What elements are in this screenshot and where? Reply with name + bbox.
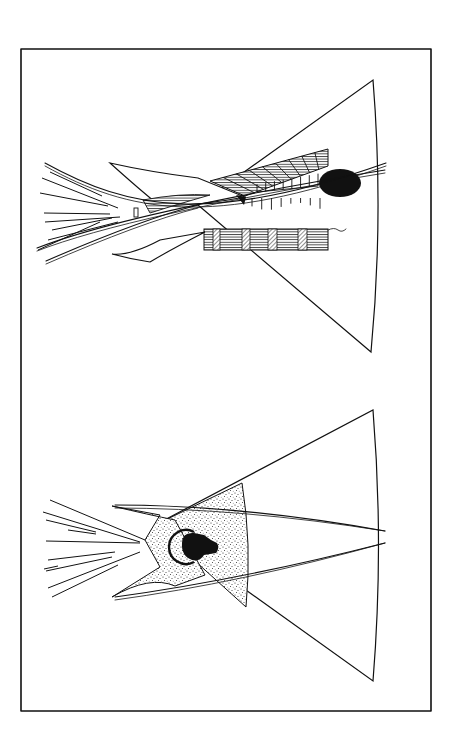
pole-tip (42, 178, 118, 208)
tipi-cover (198, 80, 378, 352)
hatched-block (242, 229, 250, 250)
pole-tip (50, 500, 145, 540)
pole-tip (43, 512, 140, 542)
pole-tip (46, 541, 140, 543)
pole-tip (52, 565, 118, 597)
tipi-bottom-buffalo (43, 410, 385, 681)
pole-tip (48, 552, 140, 588)
pole-tip (44, 213, 110, 214)
decorative-band-lower (204, 229, 328, 250)
tipi-top-decorated (37, 80, 386, 352)
hatched-block (213, 229, 220, 250)
pole-tip (45, 217, 120, 222)
hatched-block (298, 229, 307, 250)
pole-tip (48, 222, 118, 240)
hatched-block (268, 229, 277, 250)
tipi-illustration (0, 0, 458, 747)
pole-tie (134, 208, 138, 217)
smoke-flap-lower (112, 232, 205, 262)
